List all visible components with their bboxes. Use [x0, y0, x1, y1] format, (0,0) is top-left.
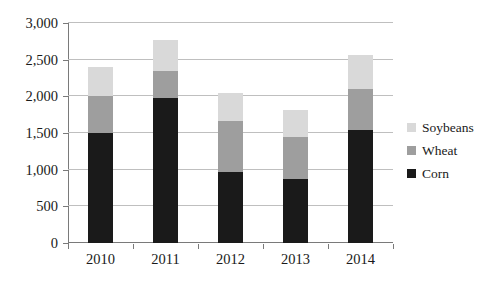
y-axis-label-2000: 2,000	[0, 89, 58, 104]
bar-group-2013[interactable]	[283, 23, 308, 243]
bar-segment-soybeans-2013[interactable]	[283, 110, 308, 137]
bar-segment-wheat-2012[interactable]	[218, 121, 243, 172]
bar-segment-wheat-2013[interactable]	[283, 137, 308, 180]
y-axis-label-1500: 1,500	[0, 126, 58, 141]
y-axis-label-3000: 3,000	[0, 16, 58, 31]
y-axis-label-0: 0	[0, 236, 58, 251]
legend-label-wheat: Wheat	[422, 144, 457, 158]
x-tick-mark-1	[198, 244, 199, 249]
y-axis-label-500: 500	[0, 199, 58, 214]
bar-segment-wheat-2014[interactable]	[348, 89, 373, 130]
legend-label-soybeans: Soybeans	[422, 121, 474, 135]
bar-segment-corn-2013[interactable]	[283, 179, 308, 243]
legend-swatch-wheat-icon	[407, 146, 416, 155]
bar-segment-soybeans-2010[interactable]	[88, 67, 113, 96]
bar-segment-corn-2012[interactable]	[218, 172, 243, 243]
legend-item-corn[interactable]: Corn	[407, 162, 474, 185]
x-tick-mark-0	[133, 244, 134, 249]
x-tick-mark-2	[263, 244, 264, 249]
x-axis-label-2014: 2014	[326, 252, 396, 267]
x-axis-label-2011: 2011	[131, 252, 201, 267]
y-axis-label-1000: 1,000	[0, 163, 58, 178]
x-tick-mark-4	[393, 244, 394, 249]
bar-segment-corn-2011[interactable]	[153, 98, 178, 243]
bar-segment-wheat-2011[interactable]	[153, 71, 178, 98]
bar-segment-wheat-2010[interactable]	[88, 96, 113, 133]
bar-group-2014[interactable]	[348, 23, 373, 243]
bar-segment-soybeans-2014[interactable]	[348, 55, 373, 89]
stacked-bar-chart: 05001,0001,5002,0002,5003,000 2010201120…	[0, 0, 498, 294]
legend-item-soybeans[interactable]: Soybeans	[407, 116, 474, 139]
x-tick-mark-origin	[68, 244, 69, 249]
bar-group-2012[interactable]	[218, 23, 243, 243]
bar-segment-corn-2014[interactable]	[348, 130, 373, 243]
legend-swatch-corn-icon	[407, 169, 416, 178]
legend-item-wheat[interactable]: Wheat	[407, 139, 474, 162]
x-axis-label-2013: 2013	[261, 252, 331, 267]
legend-swatch-soybeans-icon	[407, 123, 416, 132]
bar-segment-soybeans-2012[interactable]	[218, 93, 243, 121]
bar-segment-soybeans-2011[interactable]	[153, 40, 178, 71]
legend-label-corn: Corn	[422, 167, 449, 181]
bars-layer	[68, 23, 393, 243]
x-tick-mark-3	[328, 244, 329, 249]
bar-segment-corn-2010[interactable]	[88, 133, 113, 243]
x-axis-label-2012: 2012	[196, 252, 266, 267]
x-axis-label-2010: 2010	[66, 252, 136, 267]
bar-group-2011[interactable]	[153, 23, 178, 243]
y-axis-label-2500: 2,500	[0, 53, 58, 68]
bar-group-2010[interactable]	[88, 23, 113, 243]
plot-area	[68, 23, 393, 243]
chart-legend: SoybeansWheatCorn	[407, 116, 474, 185]
